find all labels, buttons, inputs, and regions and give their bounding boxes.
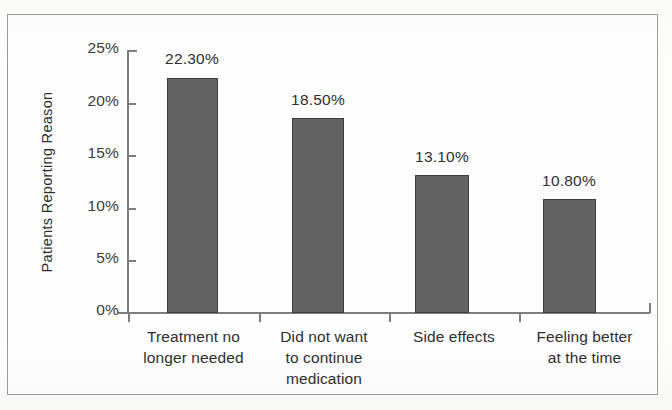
x-category-label-0: Treatment no longer needed	[128, 326, 259, 368]
x-category-label-1-line-1: to continue	[259, 347, 389, 368]
x-category-label-2: Side effects	[389, 326, 519, 347]
x-category-label-1-line-0: Did not want	[259, 326, 389, 347]
chart-figure: 25% 20% 15% 10% 5% 0% 22.30% 18.50% 13.1…	[0, 0, 672, 410]
bar-value-label-0: 22.30%	[142, 50, 242, 68]
y-axis-line	[127, 50, 129, 314]
y-tick-mark-5	[128, 260, 136, 262]
x-category-label-3: Feeling better at the time	[519, 326, 650, 368]
x-tick-mark-2	[389, 313, 391, 322]
bar-treatment-no-longer-needed[interactable]	[167, 78, 218, 313]
y-tick-mark-25	[128, 50, 136, 52]
x-category-label-3-line-1: at the time	[519, 347, 650, 368]
y-tick-label-20: 20%	[11, 92, 119, 110]
x-category-label-0-line-0: Treatment no	[128, 326, 259, 347]
y-tick-label-25: 25%	[11, 39, 119, 57]
bar-value-label-1: 18.50%	[268, 91, 368, 109]
x-category-label-3-line-0: Feeling better	[519, 326, 650, 347]
y-tick-label-10: 10%	[11, 197, 119, 215]
x-tick-mark-0	[128, 313, 130, 322]
y-tick-mark-10	[128, 208, 136, 210]
x-category-label-1-line-2: medication	[259, 368, 389, 389]
y-tick-label-15: 15%	[11, 144, 119, 162]
x-category-label-0-line-1: longer needed	[128, 347, 259, 368]
bar-did-not-want-to-continue-medication[interactable]	[292, 118, 344, 313]
y-tick-mark-20	[128, 103, 136, 105]
x-axis-right-cap	[649, 303, 651, 313]
bar-side-effects[interactable]	[415, 175, 469, 313]
y-tick-label-5: 5%	[11, 249, 119, 267]
bar-value-label-3: 10.80%	[519, 172, 619, 190]
x-category-label-2-line-0: Side effects	[389, 326, 519, 347]
y-tick-mark-15	[128, 155, 136, 157]
x-tick-mark-1	[259, 313, 261, 322]
plot-area: 25% 20% 15% 10% 5% 0% 22.30% 18.50% 13.1…	[0, 0, 672, 410]
y-axis-title: Patients Reporting Reason	[39, 92, 55, 273]
bar-feeling-better-at-the-time[interactable]	[543, 199, 596, 313]
bar-value-label-2: 13.10%	[392, 148, 492, 166]
y-tick-label-0: 0%	[11, 301, 119, 319]
x-tick-mark-3	[519, 313, 521, 322]
x-category-label-1: Did not want to continue medication	[259, 326, 389, 389]
